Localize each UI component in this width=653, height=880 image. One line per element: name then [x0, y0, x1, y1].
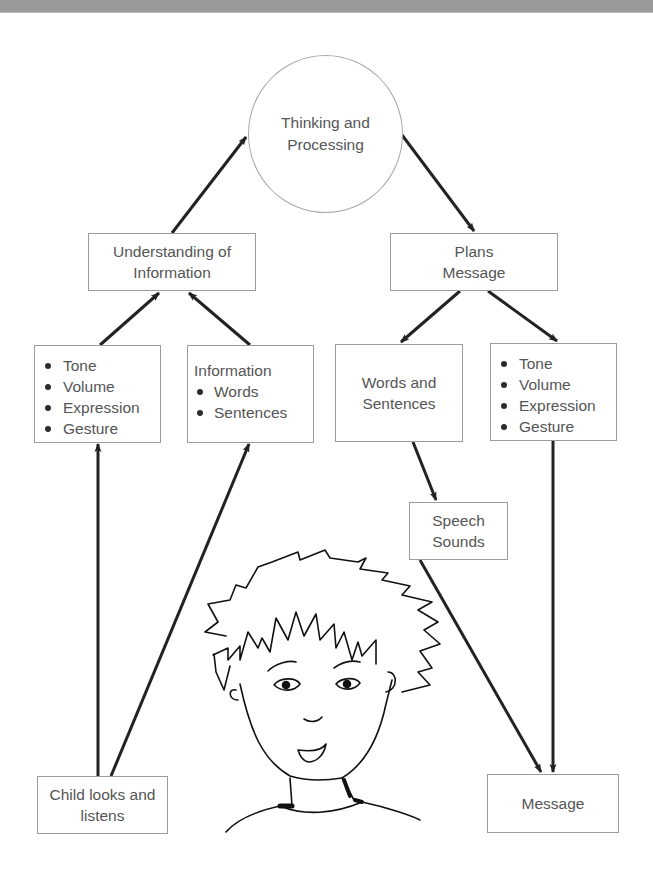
list-item: Words	[194, 381, 313, 402]
words-line1: Words and	[362, 372, 437, 393]
arrow-understanding-to-thinking	[172, 137, 246, 233]
hair-fringe	[213, 612, 376, 664]
understanding-line2: Information	[133, 262, 211, 283]
thinking-processing-node: Thinking and Processing	[248, 55, 403, 213]
nonverbal-input-node: Tone Volume Expression Gesture	[34, 345, 161, 443]
list-item: Expression	[497, 395, 616, 416]
plans-message-node: Plans Message	[390, 233, 558, 291]
arrow-plans-to-nonverbal-out	[488, 291, 557, 341]
list-item: Gesture	[497, 416, 616, 437]
arrow-information-to-understanding	[189, 293, 250, 345]
arrow-nonverbal-in-to-understanding	[100, 293, 159, 345]
list-item: Sentences	[194, 402, 313, 423]
understanding-node: Understanding of Information	[88, 233, 256, 291]
arrow-words-sentences-to-speech-sounds	[413, 442, 436, 500]
information-title: Information	[194, 360, 313, 381]
arrow-plans-to-words-sentences	[401, 291, 460, 342]
plans-line1: Plans	[455, 241, 494, 262]
list-item: Tone	[41, 355, 160, 376]
child-looks-listens-node: Child looks and listens	[37, 776, 168, 834]
mouth	[298, 744, 326, 762]
nonverbal-output-node: Tone Volume Expression Gesture	[490, 343, 617, 441]
understanding-line1: Understanding of	[113, 241, 231, 262]
left-ear	[230, 690, 238, 700]
information-node: Information Words Sentences	[187, 345, 314, 443]
hair	[205, 550, 440, 692]
speech-line2: Sounds	[432, 531, 485, 552]
list-item: Volume	[497, 374, 616, 395]
right-ear	[386, 672, 395, 692]
child-line2: listens	[81, 805, 125, 826]
speech-line1: Speech	[432, 510, 485, 531]
arrow-thinking-to-plans	[402, 135, 474, 231]
words-sentences-node: Words and Sentences	[335, 344, 463, 442]
nose	[304, 717, 322, 721]
arrow-child-to-information	[111, 444, 249, 776]
list-item: Gesture	[41, 418, 160, 439]
child-face-illustration	[205, 550, 440, 832]
face-outline	[240, 680, 392, 780]
right-eyebrow	[334, 661, 360, 668]
message-node: Message	[487, 774, 619, 833]
list-item: Tone	[497, 353, 616, 374]
thinking-line2: Processing	[287, 134, 364, 156]
shoulders	[226, 802, 420, 832]
arrow-speech-sounds-to-message	[420, 560, 541, 772]
child-line1: Child looks and	[50, 784, 156, 805]
thinking-line1: Thinking and	[281, 112, 370, 134]
list-item: Volume	[41, 376, 160, 397]
words-line2: Sentences	[362, 393, 435, 414]
message-line1: Message	[522, 793, 585, 814]
left-eyebrow	[268, 661, 296, 671]
plans-line2: Message	[443, 262, 506, 283]
list-item: Expression	[41, 397, 160, 418]
speech-sounds-node: Speech Sounds	[409, 502, 508, 560]
